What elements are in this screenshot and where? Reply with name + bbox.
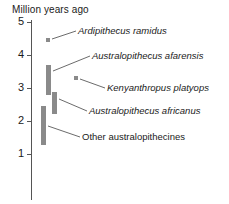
mark-australopithecus-africanus: [52, 92, 57, 114]
label-ardipithecus-ramidus: Ardipithecus ramidus: [78, 25, 167, 36]
mark-ardipithecus-ramidus: [46, 38, 50, 42]
evolution-timeline-chart: Million years ago 5 4 3 2 1: [0, 0, 229, 204]
label-other-australopithecines: Other australopithecines: [82, 131, 185, 142]
label-kenyanthropus-platyops: Kenyanthropus platyops: [107, 82, 209, 93]
label-australopithecus-afarensis: Australopithecus afarensis: [92, 50, 203, 61]
label-australopithecus-africanus: Australopithecus africanus: [89, 105, 200, 116]
mark-australopithecus-afarensis: [46, 65, 51, 95]
mark-kenyanthropus-platyops: [74, 76, 78, 80]
mark-other-australopithecines: [41, 106, 46, 145]
